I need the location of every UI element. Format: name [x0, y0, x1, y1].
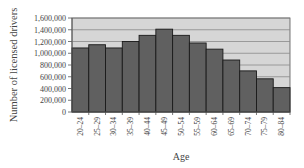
x-tick-label: 25–29 [93, 117, 102, 136]
bar-35–39 [122, 42, 139, 113]
y-tick-labels: 0200,000400,000600,000800,0001,000,0001,… [34, 14, 72, 117]
x-tick-label: 40–44 [143, 117, 152, 136]
y-tick-label: 1,000,000 [34, 49, 66, 58]
y-tick-label: 1,400,000 [34, 26, 66, 35]
x-tick-label: 45–49 [160, 117, 169, 136]
x-tick-label: 50–54 [177, 117, 186, 136]
y-tick-label: 600,000 [40, 73, 66, 82]
bar-80–84 [273, 88, 290, 112]
y-tick-label: 200,000 [40, 96, 66, 105]
x-tick-label: 60–64 [210, 117, 219, 136]
y-tick-label: 0 [62, 108, 66, 117]
x-tick-label: 35–39 [126, 117, 135, 136]
x-tick-label: 55–59 [193, 117, 202, 136]
bar-chart: 0200,000400,000600,000800,0001,000,0001,… [0, 0, 304, 168]
x-tick-label: 75–79 [260, 117, 269, 136]
bar-70–74 [240, 71, 257, 112]
y-tick-label: 400,000 [40, 85, 66, 94]
bar-30–34 [106, 48, 123, 112]
y-tick-label: 1,600,000 [34, 14, 66, 23]
y-tick-label: 800,000 [40, 61, 66, 70]
x-tick-label: 30–34 [109, 117, 118, 136]
y-tick-label: 1,200,000 [34, 38, 66, 47]
bar-20–24 [72, 48, 89, 112]
bar-55–59 [189, 43, 206, 112]
x-tick-label: 80–84 [277, 117, 286, 136]
x-tick-label: 20–24 [76, 117, 85, 136]
bar-50–54 [173, 35, 190, 112]
x-tick-label: 70–74 [244, 117, 253, 136]
x-tick-label: 65–69 [227, 117, 236, 136]
y-axis-label: Number of licensed drivers [8, 8, 19, 123]
bar-40–44 [139, 35, 156, 112]
bar-75–79 [256, 79, 273, 112]
bar-65–69 [223, 60, 240, 112]
bar-45–49 [156, 29, 173, 112]
x-axis-label: Age [173, 151, 190, 162]
x-tick-labels: 20–2425–2930–3435–3940–4445–4950–5455–59… [76, 112, 290, 136]
bar-25–29 [89, 45, 106, 112]
bar-60–64 [206, 49, 223, 112]
